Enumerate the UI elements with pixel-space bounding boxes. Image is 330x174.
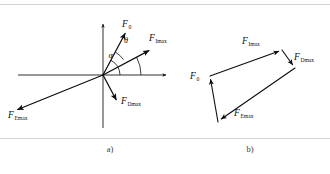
panel-a-angle-theta-label: θ <box>124 36 128 45</box>
panel-a-label-femax-sub: Emax <box>14 115 27 121</box>
panel-a-label-f0-sub: 0 <box>128 24 131 30</box>
caption-panel-b: b) <box>246 144 253 154</box>
panel-a-theta-arc <box>115 52 123 60</box>
panel-b-label-femax-base: F <box>233 108 240 118</box>
panel-b-label-f0-sub: 0 <box>196 76 199 82</box>
panel-a-vector-fdmax <box>103 75 116 100</box>
panel-b-label-femax-sub: Emax <box>240 113 253 119</box>
panel-b-label-fdmax-base: F <box>293 52 300 62</box>
figure-container: F0 FImax FDmax FEmax θ α <box>0 0 330 174</box>
panel-b: F0 FImax FDmax FEmax <box>189 36 314 122</box>
panel-b-label-fimax-sub: Imax <box>248 41 260 47</box>
panel-b-vector-fimax <box>210 51 279 76</box>
panel-b-label-f0: F0 <box>189 71 199 82</box>
panel-a: F0 FImax FDmax FEmax θ α <box>7 19 167 128</box>
panel-b-label-f0-base: F <box>189 71 196 81</box>
panel-b-vector-femax <box>221 68 295 119</box>
panel-b-label-fdmax-sub: Dmax <box>300 57 314 63</box>
panel-b-label-fimax: FImax <box>241 36 260 47</box>
panel-a-label-femax-base: F <box>7 110 14 120</box>
panel-a-label-fimax: FImax <box>148 33 167 44</box>
panel-a-label-fimax-base: F <box>148 33 155 43</box>
panel-a-label-fdmax-sub: Dmax <box>127 101 141 107</box>
panel-a-label-fimax-sub: Imax <box>155 38 167 44</box>
panel-a-label-f0-base: F <box>121 19 128 29</box>
panel-a-outer-arc <box>137 57 141 75</box>
panel-b-vector-fdmax <box>282 50 293 65</box>
panel-a-angle-alpha-label: α <box>109 51 114 60</box>
panel-b-label-femax: FEmax <box>233 108 254 119</box>
panel-b-label-fimax-base: F <box>241 36 248 46</box>
panel-b-label-fdmax: FDmax <box>293 52 314 63</box>
force-vector-diagram: F0 FImax FDmax FEmax θ α <box>0 0 330 174</box>
panel-b-vector-f0 <box>211 80 218 123</box>
panel-a-vector-femax <box>18 75 103 110</box>
panel-a-label-fdmax-base: F <box>120 96 127 106</box>
panel-a-label-f0: F0 <box>121 19 131 30</box>
panel-a-label-femax: FEmax <box>7 110 28 121</box>
panel-a-label-fdmax: FDmax <box>120 96 141 107</box>
caption-panel-a: a) <box>107 144 114 154</box>
